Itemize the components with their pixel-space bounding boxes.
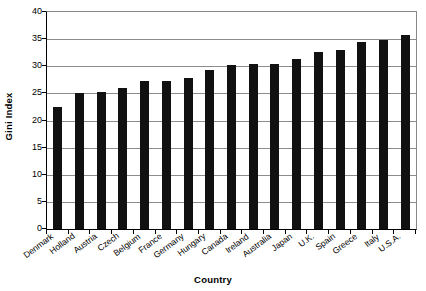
y-axis-tick-label: 15 — [18, 142, 42, 151]
bar — [336, 50, 345, 229]
y-axis-tick-label: 25 — [18, 88, 42, 97]
gini-index-bar-chart: Gini Index 0510152025303540 DenmarkHolla… — [0, 0, 426, 291]
y-axis-tick-mark — [42, 92, 46, 93]
y-axis-tick-label: 30 — [18, 61, 42, 70]
bar — [270, 64, 279, 229]
bar — [292, 59, 301, 229]
y-axis-tick-label: 40 — [18, 7, 42, 16]
bars-layer — [47, 12, 416, 229]
bar — [118, 88, 127, 229]
bar — [162, 81, 171, 229]
y-axis-tick-mark — [42, 174, 46, 175]
x-axis-category-labels: DenmarkHollandAustriaCzechBelgiumFranceG… — [0, 232, 426, 277]
x-axis-category-label: Japan — [270, 232, 294, 253]
y-axis-tick-label: 35 — [18, 34, 42, 43]
y-axis-tick-mark — [42, 65, 46, 66]
bar — [53, 107, 62, 229]
bar — [227, 65, 236, 229]
y-axis-tick-mark — [42, 228, 46, 229]
bar — [184, 78, 193, 229]
plot-inner — [47, 12, 416, 229]
bar — [401, 35, 410, 229]
y-axis-tick-mark — [42, 147, 46, 148]
x-axis-title: Country — [0, 274, 426, 285]
bar — [379, 40, 388, 229]
bar — [357, 42, 366, 229]
x-axis-category-label: Greece — [331, 232, 359, 256]
bar — [140, 81, 149, 229]
y-axis-tick-mark — [42, 38, 46, 39]
bar — [205, 70, 214, 229]
y-axis-title: Gini Index — [0, 0, 18, 232]
y-axis-tick-label: 5 — [18, 196, 42, 205]
bar — [75, 93, 84, 229]
bar — [314, 52, 323, 229]
y-axis-tick-mark — [42, 120, 46, 121]
y-axis-title-text: Gini Index — [4, 92, 15, 140]
y-axis-tick-label: 20 — [18, 115, 42, 124]
y-axis-tick-mark — [42, 201, 46, 202]
y-axis-tick-label: 10 — [18, 169, 42, 178]
x-axis-category-label: U.K. — [297, 232, 316, 249]
bar — [249, 64, 258, 229]
y-axis-tick-mark — [42, 11, 46, 12]
bar — [97, 92, 106, 229]
x-axis-category-label: Austria — [72, 232, 99, 255]
x-axis-category-label: U.S.A. — [377, 232, 402, 254]
y-axis-tick-labels: 0510152025303540 — [18, 0, 42, 240]
plot-area — [46, 11, 417, 230]
